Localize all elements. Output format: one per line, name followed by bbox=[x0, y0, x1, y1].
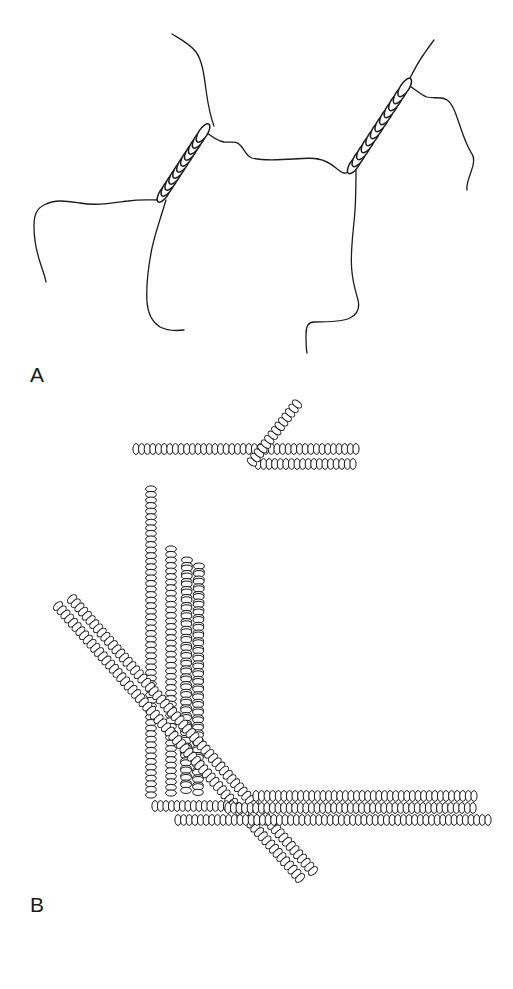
filament-strand-center-upper-link bbox=[206, 132, 318, 160]
bead-filament-bottom-horizontal-left-short bbox=[152, 801, 235, 812]
filament-strand-left-lower-descend bbox=[147, 200, 184, 331]
panel-b bbox=[0, 390, 513, 989]
filament-bead bbox=[485, 815, 491, 826]
coiled-coil-right-coil bbox=[345, 76, 414, 175]
bead-filament-inner-vertical-1 bbox=[166, 546, 177, 796]
filament-bead bbox=[350, 459, 356, 470]
bead-filament-bottom-horizontal-lower-long bbox=[175, 815, 491, 826]
panel-a-drawing bbox=[0, 0, 513, 400]
bead-filament-bottom-horizontal-upper-long bbox=[253, 791, 477, 802]
panel-a-coiled-coil-segments bbox=[155, 76, 415, 204]
bead-filament-bottom-horizontal-mid-long bbox=[225, 803, 476, 814]
filament-strand-right-upper-tail bbox=[408, 40, 434, 82]
filament-strand-right-side-branch bbox=[410, 86, 474, 190]
bead-filament-top-horizontal-lower bbox=[255, 459, 356, 470]
filament-bead bbox=[193, 789, 204, 795]
bead-filament-top-horizontal-upper bbox=[133, 444, 359, 455]
filament-strand-left-mid-branch bbox=[34, 200, 160, 282]
filament-bead bbox=[181, 787, 192, 793]
bead-filament-left-diagonal-strand-1 bbox=[52, 600, 306, 884]
filament-strand-right-lower-descend bbox=[306, 170, 359, 353]
bead-filament-top-right-diagonal-stub bbox=[246, 398, 303, 468]
filament-bead bbox=[146, 792, 157, 798]
panel-b-bead-filaments bbox=[52, 398, 491, 884]
filament-strand-upper-left-tail bbox=[172, 34, 214, 126]
panel-b-drawing bbox=[0, 390, 513, 989]
panel-label-b: B bbox=[30, 894, 45, 915]
panel-label-a: A bbox=[30, 364, 45, 385]
filament-bead bbox=[353, 444, 359, 455]
filament-bead bbox=[166, 790, 177, 796]
coiled-coil-left-coil bbox=[155, 122, 213, 204]
filament-bead bbox=[471, 791, 477, 802]
bead-filament-left-vertical-long bbox=[146, 486, 157, 798]
panel-a bbox=[0, 0, 513, 400]
filament-bead bbox=[470, 803, 476, 814]
figure-root: A B bbox=[0, 0, 513, 989]
